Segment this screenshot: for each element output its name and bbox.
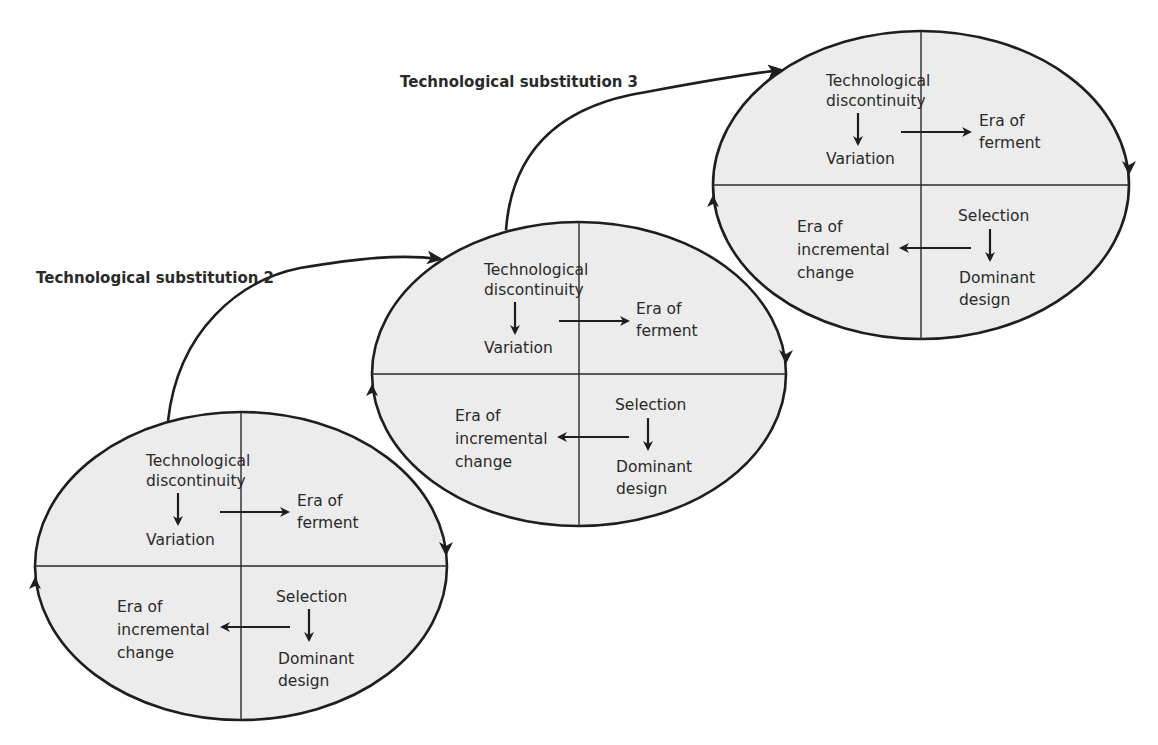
cycle-3: Technological discontinuity Variation Er…: [707, 31, 1136, 339]
technology-cycle-diagram: Technological substitution 2 Technologic…: [0, 0, 1158, 745]
substitution-label-2: Technological substitution 2: [36, 269, 274, 287]
selection-label: Selection: [276, 588, 347, 606]
variation-label: Variation: [484, 339, 553, 357]
substitution-label-3: Technological substitution 3: [400, 73, 638, 91]
variation-label: Variation: [826, 150, 895, 168]
cycle-2: Technological discontinuity Variation Er…: [366, 222, 793, 527]
variation-label: Variation: [146, 531, 215, 549]
cycle-1: Technological discontinuity Variation Er…: [29, 412, 453, 720]
selection-label: Selection: [958, 207, 1029, 225]
selection-label: Selection: [615, 396, 686, 414]
